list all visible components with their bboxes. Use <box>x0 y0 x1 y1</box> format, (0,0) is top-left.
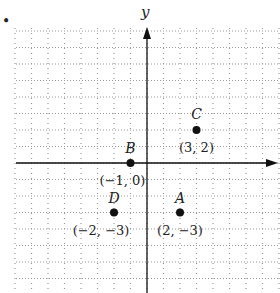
point-name: C <box>191 106 202 122</box>
plotted-points: A(2, −3)B(−1, 0)C(3, 2)D(−2, −3) <box>73 106 214 238</box>
point-coordinates: (2, −3) <box>157 223 203 238</box>
point-dot-icon <box>176 209 184 217</box>
axes <box>16 27 278 293</box>
point-dot-icon <box>127 159 135 167</box>
point-coordinates: (3, 2) <box>179 140 214 155</box>
point-name: B <box>124 140 135 156</box>
point-b: B(−1, 0) <box>100 140 146 188</box>
x-axis-arrow-icon <box>266 159 278 167</box>
point-name: A <box>173 190 185 206</box>
y-axis-label: y <box>140 3 150 21</box>
coordinate-plane: A(2, −3)B(−1, 0)C(3, 2)D(−2, −3) • y <box>0 0 280 293</box>
point-dot-icon <box>110 209 118 217</box>
point-name: D <box>107 190 119 206</box>
point-coordinates: (−1, 0) <box>100 173 146 188</box>
y-axis-arrow-icon <box>143 27 151 39</box>
bullet-marker: • <box>2 13 10 29</box>
point-coordinates: (−2, −3) <box>73 223 130 238</box>
point-dot-icon <box>193 126 201 134</box>
